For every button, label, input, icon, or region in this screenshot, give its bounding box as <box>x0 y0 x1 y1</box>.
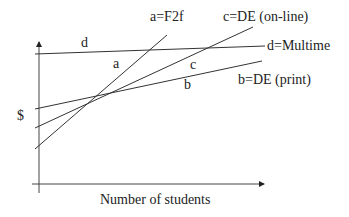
label-d-inline: d <box>81 36 88 50</box>
label-a-inline: a <box>113 57 119 71</box>
diagram-graphics <box>0 0 349 217</box>
label-b-inline: b <box>184 78 191 92</box>
label-a-end: a=F2f <box>150 10 184 24</box>
label-c-inline: c <box>190 58 196 72</box>
label-d-end: d=Multime <box>267 39 330 53</box>
label-b-end: b=DE (print) <box>238 73 311 87</box>
line-c-de-online <box>35 27 253 128</box>
y-axis-label: $ <box>17 109 24 123</box>
line-b-de-print <box>35 61 262 109</box>
label-c-end: c=DE (on-line) <box>223 10 308 24</box>
cost-diagram: a=F2f c=DE (on-line) d=Multime b=DE (pri… <box>0 0 349 217</box>
x-axis-label: Number of students <box>100 193 210 207</box>
